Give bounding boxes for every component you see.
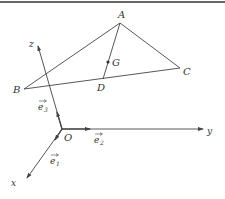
label-e2: e 2 bbox=[94, 133, 104, 147]
label-g: G bbox=[112, 57, 120, 68]
edge-ac bbox=[120, 23, 180, 68]
edge-ab bbox=[24, 23, 120, 89]
label-y-axis: y bbox=[206, 126, 213, 136]
label-b: B bbox=[12, 84, 20, 95]
label-x-axis: x bbox=[11, 178, 16, 188]
label-a: A bbox=[117, 9, 125, 20]
svg-text:e: e bbox=[94, 135, 99, 145]
label-e3: e 3 bbox=[38, 100, 48, 114]
svg-text:2: 2 bbox=[99, 139, 104, 146]
diagram-canvas: A B C D G O z y x e 3 e 2 e 1 bbox=[0, 0, 225, 199]
label-e1: e 1 bbox=[50, 154, 60, 168]
e1-vector bbox=[55, 129, 62, 140]
svg-text:1: 1 bbox=[56, 160, 60, 167]
svg-text:e: e bbox=[50, 156, 55, 166]
label-c: C bbox=[183, 66, 191, 77]
label-o: O bbox=[64, 132, 72, 143]
svg-text:3: 3 bbox=[44, 106, 48, 113]
e3-vector bbox=[57, 112, 62, 129]
svg-text:e: e bbox=[38, 102, 43, 112]
median-ad bbox=[103, 23, 120, 79]
label-d: D bbox=[96, 82, 105, 93]
point-g bbox=[106, 60, 109, 63]
label-z-axis: z bbox=[28, 39, 34, 49]
